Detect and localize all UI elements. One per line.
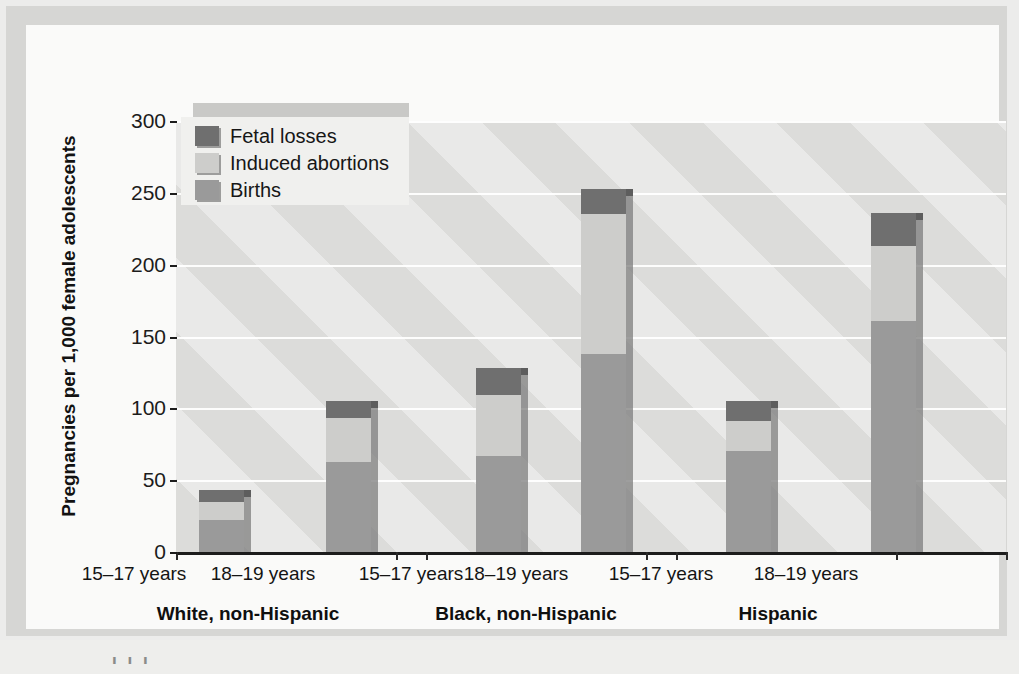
bar-segment-fetal-losses	[581, 189, 626, 215]
bar-3	[476, 368, 521, 552]
y-axis-title: Pregnancies per 1,000 female adolescents	[58, 116, 80, 536]
bar-segment-induced-abortions	[581, 214, 626, 353]
bar-segment-births	[726, 451, 771, 552]
bar-shadow	[371, 408, 378, 552]
y-tick-label: 300	[106, 109, 166, 133]
x-age-label: 18–19 years	[198, 563, 328, 585]
bar-segment-induced-abortions	[199, 502, 244, 521]
bar-segment-fetal-losses	[199, 490, 244, 501]
y-tick-mark	[170, 552, 177, 554]
bar-shadow	[626, 196, 633, 552]
legend-item-fetal-losses: Fetal losses	[195, 123, 337, 149]
y-tick-label: 150	[106, 325, 166, 349]
y-tick-label: 0	[106, 540, 166, 564]
x-tick-mark	[396, 552, 398, 560]
y-axis-tick-labels: 050100150200250300	[104, 121, 166, 552]
bar-segment-induced-abortions	[326, 418, 371, 461]
bar-segment-births	[199, 520, 244, 552]
x-group-label: White, non-Hispanic	[98, 603, 398, 625]
bar-1	[199, 490, 244, 552]
bar-2	[326, 401, 371, 552]
legend-label: Induced abortions	[230, 152, 389, 175]
x-group-label: Hispanic	[628, 603, 928, 625]
y-tick-label: 50	[106, 468, 166, 492]
x-age-label: 15–17 years	[69, 563, 199, 585]
x-age-label: 18–19 years	[451, 563, 581, 585]
legend-label: Fetal losses	[230, 125, 337, 148]
bar-segment-births	[581, 354, 626, 552]
x-age-label: 18–19 years	[741, 563, 871, 585]
bar-6	[871, 213, 916, 552]
bar-segment-fetal-losses	[326, 401, 371, 418]
legend-swatch-icon	[195, 180, 219, 200]
legend: Fetal lossesInduced abortionsBirths	[181, 103, 409, 207]
bar-segment-induced-abortions	[871, 246, 916, 321]
bar-shadow	[771, 408, 778, 552]
bar-top-bevel	[771, 401, 778, 408]
x-tick-mark	[896, 552, 898, 560]
x-tick-mark	[646, 552, 648, 560]
y-tick-mark	[170, 480, 177, 482]
y-tick-mark	[170, 337, 177, 339]
x-tick-mark	[1006, 552, 1008, 560]
bar-top-bevel	[521, 368, 528, 375]
bar-segment-births	[871, 321, 916, 552]
figure-frame: Pregnancies per 1,000 female adolescents…	[6, 6, 1007, 636]
bar-top-bevel	[371, 401, 378, 408]
legend-header-strip	[193, 103, 409, 117]
y-tick-label: 200	[106, 253, 166, 277]
y-tick-mark	[170, 408, 177, 410]
x-age-label: 15–17 years	[596, 563, 726, 585]
bar-segment-births	[476, 456, 521, 552]
bar-5	[726, 401, 771, 552]
figure-page: Pregnancies per 1,000 female adolescents…	[0, 0, 1019, 674]
cut-off-caption-strip: I I I	[0, 640, 1019, 674]
y-tick-mark	[170, 265, 177, 267]
legend-item-induced-abortions: Induced abortions	[195, 150, 389, 176]
y-tick-mark	[170, 193, 177, 195]
bar-top-bevel	[916, 213, 923, 220]
bar-segment-fetal-losses	[476, 368, 521, 395]
legend-item-births: Births	[195, 177, 281, 203]
legend-swatch-icon	[195, 153, 219, 173]
bar-shadow	[521, 375, 528, 552]
x-axis-line	[176, 552, 1008, 555]
bar-segment-induced-abortions	[476, 395, 521, 455]
legend-label: Births	[230, 179, 281, 202]
legend-body: Fetal lossesInduced abortionsBirths	[181, 117, 409, 205]
cut-off-caption: I I I	[112, 654, 151, 664]
x-tick-mark	[676, 552, 678, 560]
y-tick-label: 100	[106, 396, 166, 420]
x-tick-mark	[426, 552, 428, 560]
chart-card: Pregnancies per 1,000 female adolescents…	[26, 25, 999, 629]
bar-segment-fetal-losses	[871, 213, 916, 246]
bar-shadow	[244, 497, 251, 552]
bar-segment-births	[326, 462, 371, 553]
legend-swatch-icon	[195, 126, 219, 146]
bar-top-bevel	[244, 490, 251, 497]
bar-4	[581, 189, 626, 552]
bar-top-bevel	[626, 189, 633, 196]
bar-shadow	[916, 220, 923, 552]
bar-segment-induced-abortions	[726, 421, 771, 451]
y-tick-label: 250	[106, 181, 166, 205]
bar-segment-fetal-losses	[726, 401, 771, 421]
y-tick-mark	[170, 121, 177, 123]
